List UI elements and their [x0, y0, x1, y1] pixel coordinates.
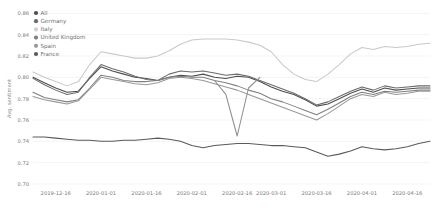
legend-label: France — [41, 51, 60, 57]
legend-label: Spain — [41, 43, 57, 50]
legend-marker-icon — [34, 44, 38, 48]
y-axis-title: Avg. sentiment — [6, 79, 13, 118]
x-tick-label: 2020-02-01 — [177, 190, 207, 196]
legend-label: Germany — [41, 18, 67, 25]
x-axis-tick-labels: 2019-12-162020-01-012020-01-162020-02-01… — [41, 190, 423, 196]
y-axis-tick-labels: 0.860.840.820.800.780.760.740.720.70 — [17, 10, 29, 187]
y-tick-label: 0.70 — [17, 181, 29, 187]
y-tick-label: 0.86 — [17, 10, 29, 16]
legend-marker-icon — [34, 11, 38, 15]
y-axis-title-text: Avg. sentiment — [6, 79, 13, 118]
x-tick-label: 2019-12-16 — [41, 190, 71, 196]
legend-marker-icon — [34, 52, 38, 56]
legend-label: All — [41, 10, 48, 16]
sentiment-line-chart: 0.860.840.820.800.780.760.740.720.70 201… — [0, 0, 433, 208]
y-tick-label: 0.80 — [17, 74, 29, 80]
y-tick-label: 0.74 — [17, 138, 29, 144]
y-tick-label: 0.84 — [17, 32, 29, 38]
x-tick-label: 2020-02-16 — [222, 190, 252, 196]
x-tick-label: 2020-04-16 — [392, 190, 422, 196]
series-line — [33, 39, 430, 86]
legend-label: United Kingdom — [41, 34, 86, 41]
y-tick-label: 0.76 — [17, 117, 29, 123]
legend: AllGermanyItalyUnited KingdomSpainFrance — [34, 10, 86, 57]
x-tick-label: 2020-03-01 — [256, 190, 286, 196]
x-tick-label: 2020-04-01 — [347, 190, 377, 196]
y-tick-label: 0.82 — [17, 53, 29, 59]
y-tick-label: 0.72 — [17, 160, 29, 166]
gridlines-group — [33, 13, 430, 184]
x-tick-label: 2020-03-16 — [301, 190, 331, 196]
legend-marker-icon — [34, 19, 38, 23]
chart-canvas: 0.860.840.820.800.780.760.740.720.70 201… — [0, 0, 433, 208]
x-tick-label: 2020-01-16 — [131, 190, 161, 196]
series-line — [33, 75, 430, 114]
legend-marker-icon — [34, 36, 38, 40]
legend-marker-icon — [34, 27, 38, 31]
y-tick-label: 0.78 — [17, 96, 29, 102]
legend-label: Italy — [41, 26, 54, 33]
x-tick-label: 2020-01-01 — [86, 190, 116, 196]
series-line — [33, 137, 430, 156]
series-lines-group — [33, 39, 430, 156]
